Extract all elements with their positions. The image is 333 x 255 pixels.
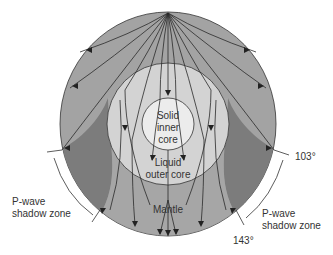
label-inner-core-2: inner bbox=[157, 122, 180, 133]
label-outer-core-1: Liquid bbox=[155, 157, 182, 168]
earth-diagram: Solid inner core Liquid outer core Mantl… bbox=[0, 0, 333, 255]
label-shadow-left-2: shadow zone bbox=[12, 208, 71, 219]
label-shadow-right-2: shadow zone bbox=[262, 220, 321, 231]
label-inner-core-1: Solid bbox=[157, 110, 179, 121]
label-shadow-right-1: P-wave bbox=[262, 208, 296, 219]
label-angle-103: 103° bbox=[295, 151, 316, 162]
label-angle-143: 143° bbox=[233, 235, 254, 246]
label-outer-core-2: outer core bbox=[145, 169, 190, 180]
label-shadow-left-1: P-wave bbox=[12, 196, 46, 207]
label-mantle: Mantle bbox=[153, 204, 183, 215]
label-inner-core-3: core bbox=[158, 134, 178, 145]
